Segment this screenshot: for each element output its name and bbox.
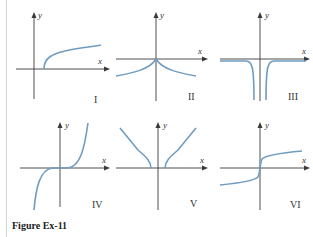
y-axis-label: y: [159, 10, 164, 20]
x-axis-label: x: [301, 46, 306, 56]
panel-label: V: [190, 198, 198, 209]
figure-caption: Figure Ex-11: [12, 220, 67, 231]
x-axis-label: x: [97, 56, 102, 66]
curve-sqrt: [44, 45, 101, 69]
y-axis-arrow-icon: [58, 122, 63, 128]
graph-panel-3: y x III: [210, 0, 313, 110]
y-axis-arrow-icon: [154, 12, 159, 18]
y-axis-arrow-icon: [156, 122, 161, 128]
graph-panel-5: y x V: [108, 115, 208, 220]
y-axis-label: y: [64, 120, 69, 130]
panel-label: III: [288, 91, 298, 102]
graph-panel-4: y x IV: [10, 115, 110, 220]
graph-panel-1: y x I: [10, 0, 110, 110]
x-axis-label: x: [301, 155, 306, 165]
curve-right-branch: [165, 128, 196, 168]
x-axis-arrow-icon: [202, 166, 208, 171]
x-axis-label: x: [197, 46, 202, 56]
graph-panel-6: y x VI: [210, 115, 313, 220]
y-axis-arrow-icon: [32, 12, 37, 18]
y-axis-label: y: [162, 120, 167, 130]
y-axis-arrow-icon: [258, 122, 263, 128]
x-axis-label: x: [199, 155, 204, 165]
left-border-rule: [6, 0, 7, 237]
curve-left-branch: [120, 128, 151, 168]
x-axis-label: x: [101, 155, 106, 165]
y-axis-label: y: [264, 120, 269, 130]
x-axis-arrow-icon: [202, 57, 208, 62]
y-axis-label: y: [37, 10, 42, 20]
curve-right-branch: [266, 61, 306, 100]
curve-cubic: [34, 123, 88, 210]
curve-left-branch: [220, 61, 254, 100]
panel-label: VI: [290, 199, 301, 210]
x-axis-arrow-icon: [304, 166, 310, 171]
graph-panel-2: y x II: [108, 0, 208, 110]
y-axis-label: y: [264, 10, 269, 20]
y-axis-arrow-icon: [258, 12, 263, 18]
panel-label: II: [188, 91, 195, 102]
panel-label: IV: [92, 199, 103, 210]
panel-label: I: [94, 94, 97, 105]
